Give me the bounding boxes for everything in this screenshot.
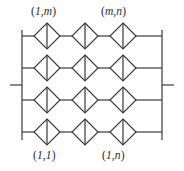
network-diagram-figure: (1,m) (m,n) (1,1) (1,n) bbox=[0, 0, 184, 171]
network-row-4 bbox=[22, 119, 162, 145]
element-r1c1 bbox=[34, 23, 60, 49]
label-bottom-left-close: ) bbox=[52, 149, 56, 161]
element-r3c1 bbox=[34, 87, 60, 113]
element-r2c1 bbox=[34, 55, 60, 81]
element-r4c2 bbox=[72, 119, 98, 145]
network-diagram-canvas bbox=[0, 0, 184, 171]
element-r1c2 bbox=[72, 23, 98, 49]
label-bottom-right-close: ) bbox=[121, 149, 125, 161]
label-bottom-right: (1,n) bbox=[102, 150, 125, 162]
label-top-left-second: m bbox=[44, 5, 52, 17]
element-r2c3 bbox=[110, 55, 136, 81]
label-top-right-close: ) bbox=[122, 5, 126, 17]
element-r4c3 bbox=[110, 119, 136, 145]
network-row-1 bbox=[22, 23, 162, 49]
label-bottom-left: (1,1) bbox=[33, 150, 56, 162]
network-row-3 bbox=[22, 87, 162, 113]
element-r3c3 bbox=[110, 87, 136, 113]
element-r3c2 bbox=[72, 87, 98, 113]
label-top-left: (1,m) bbox=[31, 6, 56, 18]
network-row-2 bbox=[22, 55, 162, 81]
label-top-left-close: ) bbox=[52, 5, 56, 17]
element-r2c2 bbox=[72, 55, 98, 81]
label-top-right: (m,n) bbox=[101, 6, 126, 18]
element-r4c1 bbox=[34, 119, 60, 145]
element-r1c3 bbox=[110, 23, 136, 49]
